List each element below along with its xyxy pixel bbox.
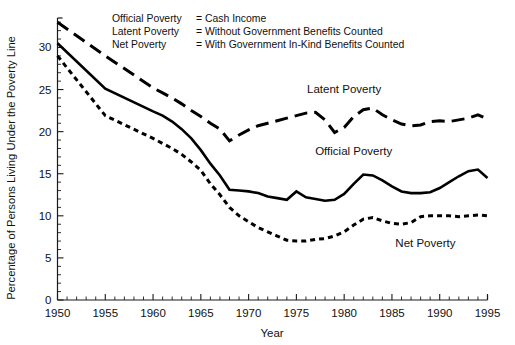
legend-equals-sign: =: [196, 25, 205, 38]
series-line-net-poverty: [58, 56, 488, 241]
legend-definition: Cash Income: [205, 12, 404, 25]
legend-row: Official Poverty=Cash Income: [112, 12, 404, 25]
y-tick-label: 5: [45, 252, 51, 264]
legend-term: Net Poverty: [112, 38, 196, 51]
x-tick-label: 1985: [379, 307, 405, 319]
legend-equals-sign: =: [196, 12, 205, 25]
y-tick-label: 20: [39, 126, 52, 138]
data-series-group: [58, 22, 488, 241]
legend-definition: Without Government Benefits Counted: [205, 25, 404, 38]
series-label-net-poverty: Net Poverty: [395, 237, 455, 249]
legend-definition: With Government In-Kind Benefits Counted: [205, 38, 404, 51]
x-tick-label: 1995: [475, 307, 501, 319]
legend-equals-sign: =: [196, 38, 205, 51]
y-axis-title: Percentage of Persons Living Under the P…: [5, 36, 17, 300]
axes: [58, 18, 488, 300]
series-annotations: Latent PovertyOfficial PovertyNet Povert…: [307, 83, 456, 249]
x-tick-label: 1960: [140, 307, 166, 319]
x-tick-label: 1965: [188, 307, 214, 319]
chart-canvas: 051015202530 195019551960196519701975198…: [0, 0, 515, 345]
series-label-latent-poverty: Latent Poverty: [307, 83, 381, 95]
series-label-official-poverty: Official Poverty: [315, 145, 392, 157]
x-tick-label: 1975: [284, 307, 310, 319]
x-tick-label: 1970: [236, 307, 262, 319]
y-tick-label: 10: [39, 210, 52, 222]
x-tick-label: 1980: [331, 307, 357, 319]
legend-definitions-block: Official Poverty=Cash IncomeLatent Pover…: [112, 12, 404, 52]
legend-term: Latent Poverty: [112, 25, 196, 38]
y-tick-label: 0: [45, 294, 51, 306]
y-tick-label: 15: [39, 168, 52, 180]
poverty-line-chart-figure: 051015202530 195019551960196519701975198…: [0, 0, 515, 345]
x-tick-label: 1955: [92, 307, 118, 319]
legend-row: Latent Poverty=Without Government Benefi…: [112, 25, 404, 38]
x-axis-ticks: [58, 294, 488, 300]
y-tick-label: 30: [39, 41, 52, 53]
x-tick-label: 1950: [45, 307, 71, 319]
legend-term: Official Poverty: [112, 12, 196, 25]
x-axis-tick-labels: 1950195519601965197019751980198519901995: [45, 307, 501, 319]
x-tick-label: 1990: [427, 307, 453, 319]
x-axis-title: Year: [260, 327, 283, 339]
legend-row: Net Poverty=With Government In-Kind Bene…: [112, 38, 404, 51]
y-tick-label: 25: [39, 84, 52, 96]
y-axis-tick-labels: 051015202530: [39, 41, 52, 306]
